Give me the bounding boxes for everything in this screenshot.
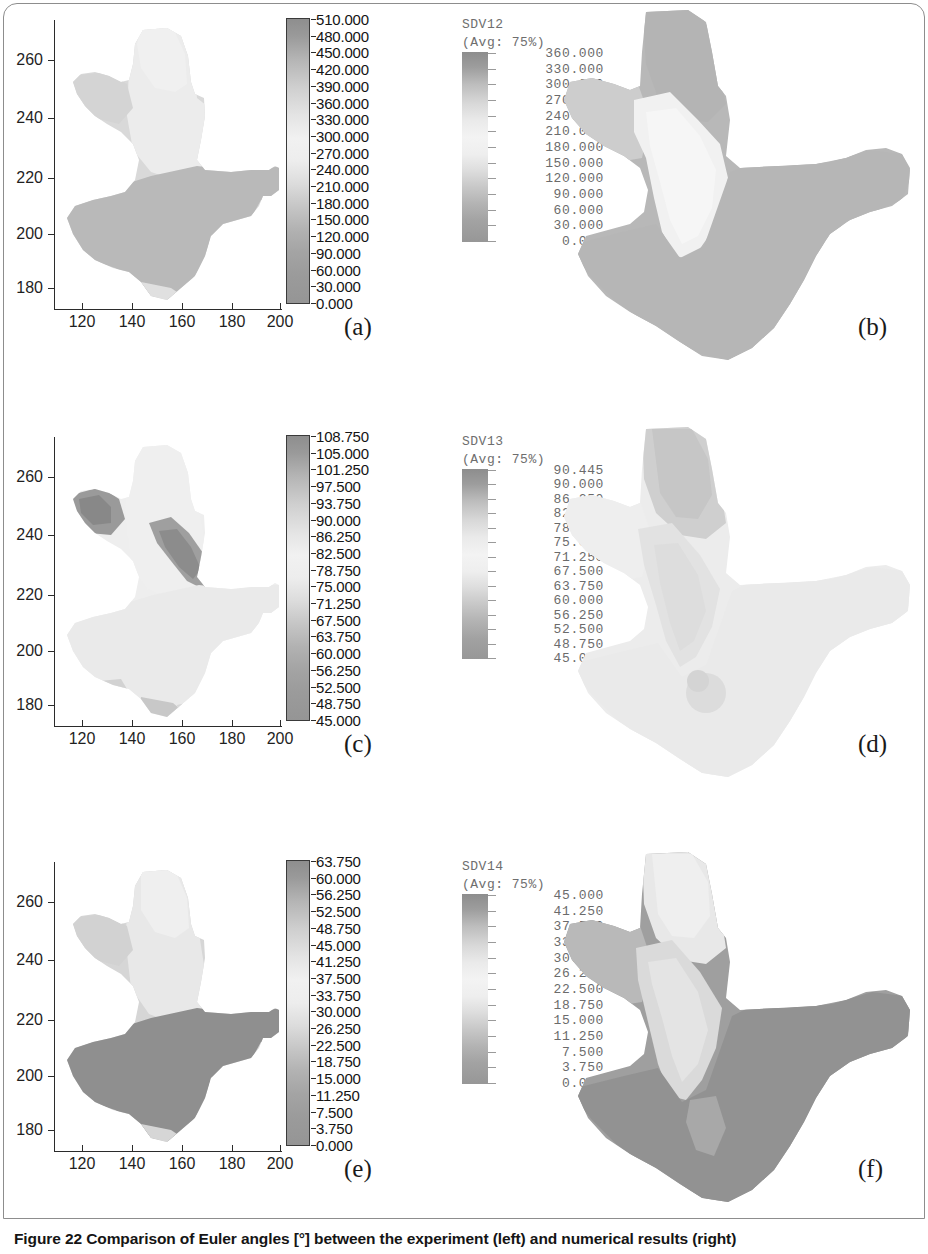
colorbar-tick-label: 210.000 <box>316 179 369 194</box>
x-tick-140 <box>132 720 133 727</box>
colorbar-tick <box>488 600 496 601</box>
colorbar-tick <box>488 69 496 70</box>
y-tick-200: 200 <box>48 651 55 652</box>
colorbar-tick-label: 105.000 <box>316 445 369 460</box>
colorbar-tick <box>488 1067 496 1068</box>
colorbar-tick <box>488 911 496 912</box>
colorbar-tick <box>488 1020 496 1021</box>
y-tick-label: 180 <box>16 280 48 296</box>
colorbar-tick-label: 480.000 <box>316 28 369 43</box>
colorbar-tick <box>488 1005 496 1006</box>
x-tick-label: 140 <box>119 314 146 330</box>
y-tick-label: 180 <box>16 697 48 713</box>
colorbar-tick <box>488 116 496 117</box>
panel-a-map <box>55 20 282 309</box>
colorbar-tick-label: 78.750 <box>316 562 361 577</box>
colorbar-tick <box>488 225 496 226</box>
colorbar-tick <box>488 528 496 529</box>
colorbar-tick <box>488 942 496 943</box>
colorbar-tick-label: 270.000 <box>316 145 369 160</box>
colorbar-tick-label: 56.250 <box>316 662 361 677</box>
colorbar-tick-label: 56.250 <box>316 887 361 902</box>
panel-a-experiment: 260 240 220 200 180 120 140 160 180 <box>8 8 428 358</box>
colorbar-tick-label: 108.750 <box>316 429 369 444</box>
x-tick-180 <box>232 720 233 727</box>
colorbar-gradient <box>286 18 310 304</box>
colorbar-tick-label: 60.000 <box>316 870 361 885</box>
y-tick-240: 240 <box>48 535 55 536</box>
x-tick-120 <box>82 303 83 310</box>
colorbar-ticks <box>488 469 497 659</box>
x-tick-label: 160 <box>169 1156 196 1172</box>
figure-caption: Figure 22 Comparison of Euler angles [°]… <box>14 1230 914 1248</box>
colorbar-tick-label: 48.750 <box>316 696 361 711</box>
colorbar-tick <box>488 973 496 974</box>
x-tick-label: 200 <box>267 1156 294 1172</box>
colorbar-tick <box>488 163 496 164</box>
colorbar-tick-label: 52.500 <box>316 679 361 694</box>
x-tick-180 <box>232 303 233 310</box>
colorbar-tick-label: 75.000 <box>316 579 361 594</box>
panel-d-map <box>530 425 928 780</box>
colorbar-gradient <box>462 52 488 242</box>
colorbar-tick-label: 30.000 <box>316 1004 361 1019</box>
x-tick-label: 120 <box>69 314 96 330</box>
x-tick-120 <box>82 1145 83 1152</box>
colorbar-tick <box>488 513 496 514</box>
colorbar-gradient <box>462 469 488 659</box>
colorbar-tick-label: 71.250 <box>316 596 361 611</box>
x-tick-160 <box>182 720 183 727</box>
panel-f-map <box>530 850 928 1205</box>
colorbar-tick-label: 420.000 <box>316 62 369 77</box>
y-tick-label: 220 <box>16 1012 48 1028</box>
figure-row-3: 260 240 220 200 180 120 140 160 180 200 <box>0 850 928 1250</box>
colorbar-tick-label: 300.000 <box>316 128 369 143</box>
colorbar-tick <box>488 210 496 211</box>
panel-b-map <box>530 8 928 363</box>
panel-b-numerical: SDV12 (Avg: 75%) 360.000330.000300.00027… <box>440 8 928 363</box>
colorbar-tick-label: 180.000 <box>316 195 369 210</box>
colorbar-ticks <box>488 894 497 1084</box>
colorbar-tick-label: 45.000 <box>316 937 361 952</box>
colorbar-gradient <box>286 435 310 721</box>
colorbar-tick <box>488 557 496 558</box>
y-tick-label: 240 <box>16 952 48 968</box>
y-tick-label: 240 <box>16 527 48 543</box>
colorbar-tick <box>488 178 496 179</box>
colorbar-tick <box>488 84 496 85</box>
colorbar-tick-label: 18.750 <box>316 1054 361 1069</box>
panel-e-experiment: 260 240 220 200 180 120 140 160 180 200 <box>8 850 428 1200</box>
colorbar-tick-label: 22.500 <box>316 1037 361 1052</box>
panel-label-b: (b) <box>858 314 887 339</box>
panel-label-c: (c) <box>344 731 372 756</box>
colorbar-tick-label: 48.750 <box>316 920 361 935</box>
colorbar-tick-label: 82.500 <box>316 545 361 560</box>
figure-22: 260 240 220 200 180 120 140 160 180 <box>0 0 928 1195</box>
panel-d-numerical: SDV13 (Avg: 75%) 90.44590.00086.25082.50… <box>440 425 928 780</box>
colorbar-tick-label: 101.250 <box>316 462 369 477</box>
colorbar-tick <box>488 470 496 471</box>
x-tick-140 <box>132 303 133 310</box>
figure-caption-text: Figure 22 Comparison of Euler angles [°]… <box>14 1230 736 1247</box>
colorbar-tick <box>488 571 496 572</box>
y-tick-180: 180 <box>48 288 55 289</box>
colorbar-tick-label: 63.750 <box>316 629 361 644</box>
colorbar-tick <box>488 484 496 485</box>
colorbar-tick-label: 60.000 <box>316 646 361 661</box>
colorbar-tick-label: 390.000 <box>316 78 369 93</box>
colorbar-ticks <box>488 52 497 242</box>
colorbar-tick-label: 90.000 <box>316 245 361 260</box>
y-tick-260: 260 <box>48 902 55 903</box>
colorbar-tick-label: 510.000 <box>316 12 369 27</box>
figure-row-1: 260 240 220 200 180 120 140 160 180 <box>0 8 928 408</box>
x-tick-120 <box>82 720 83 727</box>
x-tick-180 <box>232 1145 233 1152</box>
y-tick-label: 220 <box>16 587 48 603</box>
x-tick-label: 140 <box>119 731 146 747</box>
colorbar-tick <box>488 1083 496 1084</box>
panel-c-map <box>55 437 282 726</box>
colorbar-tick <box>488 1052 496 1053</box>
x-tick-label: 160 <box>169 314 196 330</box>
y-tick-240: 240 <box>48 118 55 119</box>
y-tick-label: 260 <box>16 52 48 68</box>
